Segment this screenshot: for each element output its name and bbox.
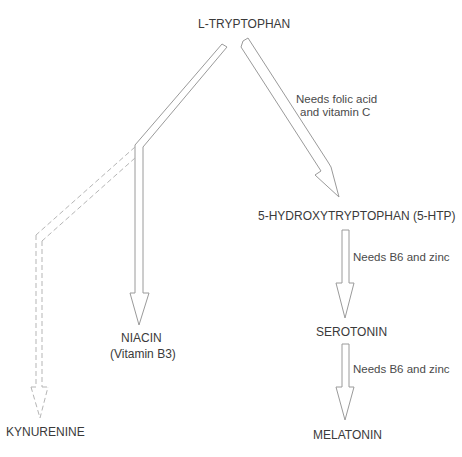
- node-5-htp: 5-HYDROXYTRYPTOPHAN (5-HTP): [258, 209, 456, 223]
- note-folic-acid-line1: Needs folic acid: [296, 93, 377, 106]
- node-niacin-subtitle: (Vitamin B3): [110, 347, 176, 361]
- note-b6-zinc-2: Needs B6 and zinc: [353, 363, 450, 376]
- node-serotonin: SEROTONIN: [316, 325, 387, 339]
- node-niacin: NIACIN: [121, 331, 162, 345]
- arrow-to-melatonin: [336, 344, 354, 420]
- note-folic-acid-line2: and vitamin C: [300, 106, 370, 119]
- node-l-tryptophan: L-TRYPTOPHAN: [198, 17, 290, 31]
- pathway-arrows: [0, 0, 462, 457]
- arrow-to-kynurenine: [31, 147, 135, 418]
- arrow-to-serotonin: [336, 230, 354, 318]
- arrow-to-niacin: [130, 44, 227, 325]
- note-b6-zinc-1: Needs B6 and zinc: [353, 251, 450, 264]
- node-melatonin: MELATONIN: [313, 428, 382, 442]
- node-kynurenine: KYNURENINE: [6, 425, 85, 439]
